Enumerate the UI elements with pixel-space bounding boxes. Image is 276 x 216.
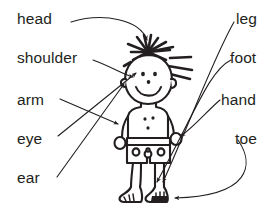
torso-dot-3 xyxy=(146,126,149,130)
shorts-circle-2 xyxy=(158,148,165,155)
leg-left xyxy=(131,163,133,187)
label-ear: ear xyxy=(17,170,40,186)
label-leg: leg xyxy=(236,11,257,27)
label-shoulder: shoulder xyxy=(17,50,77,66)
leader-ear xyxy=(57,84,124,177)
hand-left xyxy=(115,137,126,149)
leader-hand xyxy=(181,100,220,136)
diagram-artwork xyxy=(0,0,276,216)
eye-left xyxy=(141,72,145,76)
leg-left-2 xyxy=(140,163,141,187)
label-hand: hand xyxy=(221,92,256,108)
torso xyxy=(128,107,168,138)
body-parts-diagram: head shoulder arm eye ear leg foot hand … xyxy=(0,0,276,216)
figure-child xyxy=(115,35,193,202)
label-foot: foot xyxy=(230,50,256,66)
leader-toe xyxy=(175,140,246,198)
label-head: head xyxy=(17,11,52,27)
shorts-circle-1 xyxy=(133,148,140,155)
torso-dot-2 xyxy=(151,116,154,120)
shorts-circle-4 xyxy=(146,148,149,151)
label-toe: toe xyxy=(235,131,257,147)
leader-head xyxy=(71,18,147,40)
eye-right xyxy=(153,72,157,76)
label-arm: arm xyxy=(17,92,44,108)
nose xyxy=(147,80,151,84)
label-eye: eye xyxy=(17,131,42,147)
torso-dot-1 xyxy=(143,117,146,121)
foot-left xyxy=(120,187,143,202)
